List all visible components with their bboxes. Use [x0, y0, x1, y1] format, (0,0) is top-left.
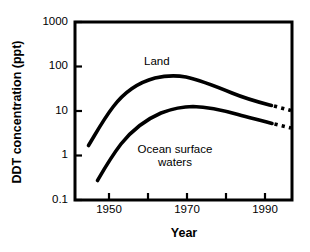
x-axis-title: Year — [104, 226, 264, 240]
series-line-land — [89, 76, 272, 146]
series-annotation-ocean-line2: waters — [121, 156, 229, 169]
series-dashed-ocean — [275, 124, 292, 128]
chart-figure: DDT concentration (ppt) Year 1000 100 10… — [0, 0, 310, 252]
series-annotation-ocean: Ocean surface waters — [121, 143, 229, 169]
plot-frame — [75, 22, 292, 200]
x-tick-label-1990: 1990 — [238, 203, 292, 215]
y-tick-label-10: 10 — [24, 104, 68, 116]
series-annotation-land: Land — [144, 55, 170, 68]
series-dashed-land — [274, 106, 291, 111]
y-tick-label-100: 100 — [24, 59, 68, 71]
y-tick-label-0.1: 0.1 — [24, 193, 68, 205]
y-tick-label-1: 1 — [24, 148, 68, 160]
y-tick-label-1000: 1000 — [24, 15, 68, 27]
series-annotation-ocean-line1: Ocean surface — [121, 143, 229, 156]
x-tick-label-1950: 1950 — [82, 203, 136, 215]
x-tick-label-1970: 1970 — [160, 203, 214, 215]
y-axis-title: DDT concentration (ppt) — [10, 22, 24, 202]
